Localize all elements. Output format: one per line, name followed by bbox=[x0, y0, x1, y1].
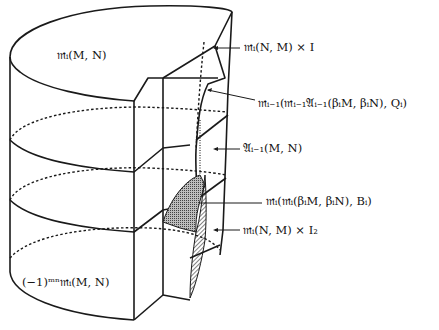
label-top-face: 𝔪ᵢ(M, N) bbox=[57, 50, 106, 62]
label-right-1: 𝔪ᵢ(N, M) × I bbox=[244, 42, 314, 54]
label-right-3: 𝔄ᵢ₋₁(M, N) bbox=[243, 143, 302, 155]
label-right-2: 𝔪ᵢ₋₁(𝔪ᵢ₋₁𝔄ᵢ₋₁(βᵢM, βᵢN), Qᵢ) bbox=[258, 98, 407, 110]
label-bottom-face: (−1)ᵐⁿ𝔪ᵢ(M, N) bbox=[22, 277, 109, 289]
arrows bbox=[200, 46, 262, 232]
label-right-5: 𝔪ᵢ(N, M) × I₂ bbox=[243, 225, 318, 237]
label-right-4: 𝔪ᵢ(𝔪ᵢ(βᵢM, βᵢN), Bᵢ) bbox=[266, 196, 372, 208]
top-face-outline bbox=[10, 6, 232, 101]
